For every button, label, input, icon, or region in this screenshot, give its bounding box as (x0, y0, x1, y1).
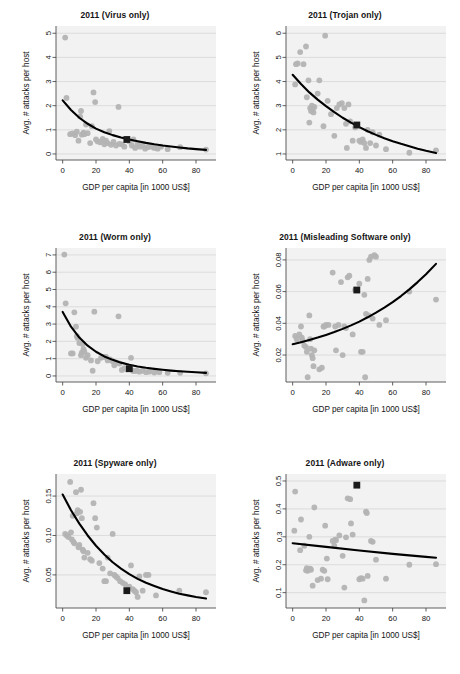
data-point (324, 556, 330, 562)
chart-panel-spyware: 2011 (Spyware only)0.050.100.15020406080… (0, 444, 230, 674)
data-point (146, 572, 152, 578)
data-point (151, 370, 157, 376)
data-point (373, 143, 379, 149)
x-tick-label: 0 (60, 388, 65, 397)
data-point (67, 479, 73, 485)
data-point (295, 61, 301, 67)
data-point (326, 322, 332, 328)
x-tick-label: 80 (422, 166, 431, 175)
data-point (64, 95, 70, 101)
data-point (346, 273, 352, 279)
data-point (91, 89, 97, 95)
data-point (153, 592, 159, 598)
data-point (365, 573, 371, 579)
chart-panel-trojan: 2011 (Trojan only)123456020406080GDP per… (230, 0, 460, 222)
data-point (94, 525, 100, 531)
y-tick-label: 3 (45, 322, 54, 326)
data-point (140, 588, 146, 594)
plot-svg-misleading-software: 0.020.040.060.08020406080GDP per capita … (230, 222, 460, 444)
data-point (96, 560, 102, 566)
data-point (346, 102, 352, 108)
highlight-marker (126, 365, 133, 372)
x-tick-label: 80 (422, 614, 431, 623)
x-tick-label: 60 (388, 388, 397, 397)
panel-title-adware: 2011 (Adware only) (230, 458, 460, 468)
data-point (100, 566, 106, 572)
data-point (68, 529, 74, 535)
data-point (87, 140, 93, 146)
data-point (343, 534, 349, 540)
data-point (311, 363, 317, 369)
data-point (306, 77, 312, 83)
data-point (330, 270, 336, 276)
data-point (350, 138, 356, 144)
data-point (344, 145, 350, 151)
data-point (92, 515, 98, 521)
x-axis-label: GDP per capita [in 1000 US$] (312, 631, 420, 640)
y-tick-label: 5 (45, 31, 54, 35)
data-point (78, 108, 84, 114)
data-point (333, 537, 339, 543)
y-tick-label: 0.06 (275, 284, 284, 299)
y-tick-label: 0 (45, 152, 54, 156)
x-tick-label: 0 (60, 166, 65, 175)
data-point (321, 123, 327, 129)
x-axis-label: GDP per capita [in 1000 US$] (312, 405, 420, 414)
data-point (76, 542, 82, 548)
y-tick-label: 0.1 (275, 587, 284, 598)
x-tick-label: 20 (92, 388, 101, 397)
x-axis-label: GDP per capita [in 1000 US$] (82, 183, 190, 192)
data-point (85, 550, 91, 556)
data-point (341, 585, 347, 591)
data-point (325, 576, 331, 582)
y-tick-label: 1 (275, 152, 284, 156)
data-point (203, 589, 209, 595)
data-point (373, 254, 379, 260)
y-axis-label: Avg. # attacks per host (22, 499, 31, 583)
chart-panel-virus: 2011 (Virus only)012345020406080GDP per … (0, 0, 230, 222)
x-axis-label: GDP per capita [in 1000 US$] (312, 183, 420, 192)
data-point (308, 567, 314, 573)
data-point (298, 517, 304, 523)
plot-svg-virus: 012345020406080GDP per capita [in 1000 U… (0, 0, 230, 222)
data-point (310, 583, 316, 589)
y-tick-label: 0.04 (275, 316, 284, 331)
y-tick-label: 6 (45, 270, 54, 274)
x-tick-label: 60 (388, 614, 397, 623)
y-tick-label: 0.05 (45, 568, 54, 583)
data-point (62, 35, 68, 41)
y-tick-label: 1 (45, 357, 54, 361)
x-tick-label: 20 (322, 388, 331, 397)
data-point (311, 104, 317, 110)
data-point (338, 279, 344, 285)
data-point (311, 347, 317, 353)
y-tick-label: 6 (275, 31, 284, 35)
data-point (333, 347, 339, 353)
data-point (433, 297, 439, 303)
data-point (77, 509, 83, 515)
y-axis-label: Avg. # attacks per host (22, 51, 31, 135)
x-tick-label: 40 (125, 388, 134, 397)
y-tick-label: 4 (275, 79, 284, 83)
y-tick-label: 0.5 (275, 476, 284, 487)
x-tick-label: 0 (60, 614, 65, 623)
data-point (128, 563, 134, 569)
data-point (406, 562, 412, 568)
x-tick-label: 60 (388, 166, 397, 175)
data-point (361, 598, 367, 604)
figure-grid: 2011 (Virus only)012345020406080GDP per … (0, 0, 460, 674)
data-point (85, 130, 91, 136)
plot-background (286, 474, 446, 608)
chart-panel-worm: 2011 (Worm only)01234567020406080GDP per… (0, 222, 230, 444)
data-point (365, 276, 371, 282)
y-tick-label: 0.02 (275, 348, 284, 363)
data-point (361, 292, 367, 298)
data-point (306, 534, 312, 540)
panel-title-worm: 2011 (Worm only) (0, 232, 230, 242)
data-point (76, 138, 82, 144)
highlight-marker (123, 587, 130, 594)
data-point (71, 309, 77, 315)
y-tick-label: 0.10 (45, 528, 54, 543)
x-tick-label: 40 (125, 166, 134, 175)
data-point (116, 313, 122, 319)
